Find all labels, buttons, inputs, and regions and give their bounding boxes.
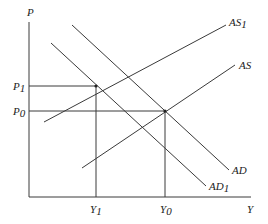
label-as: AS [238,59,252,71]
label-y1: Y1 [90,203,102,217]
as-ad-diagram: P Y P1 P0 Y1 Y0 AS1 AS AD AD1 [0,0,268,224]
equilibrium-point-0 [163,109,166,112]
label-p1: P1 [12,80,25,94]
equilibrium-point-1 [94,84,97,87]
curve-as1 [44,25,226,122]
x-axis-label: Y [247,203,255,215]
label-y0: Y0 [160,203,172,217]
label-ad1: AD1 [208,180,229,194]
label-as1: AS1 [228,16,247,30]
y-axis-label: P [26,6,34,18]
label-p0: P0 [12,105,26,119]
curve-ad1 [51,43,206,186]
curve-as [82,65,235,168]
label-ad: AD [231,164,247,176]
